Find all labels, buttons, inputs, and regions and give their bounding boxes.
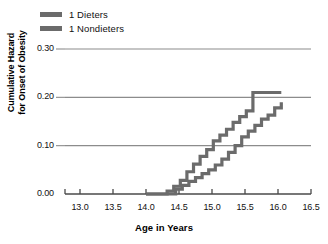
y-axis-title-line2: for Onset of Obesity (16, 11, 27, 135)
y-tick-label-1: 0.10 (22, 140, 54, 150)
x-axis-title: Age in Years (0, 222, 328, 233)
y-tick-label-3: 0.30 (22, 43, 54, 53)
x-tick-label-4: 15.0 (195, 202, 229, 212)
chart-figure: 1 Dieters 1 Nondieters Cumulative Hazard… (0, 0, 328, 244)
y-axis-title-line1: Cumulative Hazard (6, 11, 17, 135)
y-tick-label-2: 0.20 (22, 91, 54, 101)
x-tick-label-5: 15.5 (228, 202, 262, 212)
x-tick-label-7: 16.5 (294, 202, 328, 212)
x-tick-label-3: 14.5 (162, 202, 196, 212)
y-axis-title: Cumulative Hazard for Onset of Obesity (6, 11, 27, 135)
x-tick-label-2: 14.0 (129, 202, 163, 212)
series-line-nondieters (146, 93, 281, 195)
x-tick-label-1: 13.5 (96, 202, 130, 212)
y-tick-label-0: 0.00 (22, 188, 54, 198)
x-tick-label-0: 13.0 (63, 202, 97, 212)
x-tick-label-6: 16.0 (261, 202, 295, 212)
